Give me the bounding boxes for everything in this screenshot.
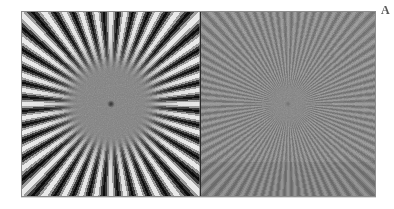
radial-star-image-right bbox=[201, 12, 376, 196]
panel-low-frequency-radial-star[interactable] bbox=[22, 12, 201, 196]
panel-high-frequency-radial-star[interactable] bbox=[201, 12, 376, 196]
figure-root: A bbox=[0, 0, 394, 209]
radial-star-image-left bbox=[22, 12, 200, 196]
panel-pair bbox=[21, 11, 376, 197]
figure-corner-label: A bbox=[381, 3, 394, 17]
